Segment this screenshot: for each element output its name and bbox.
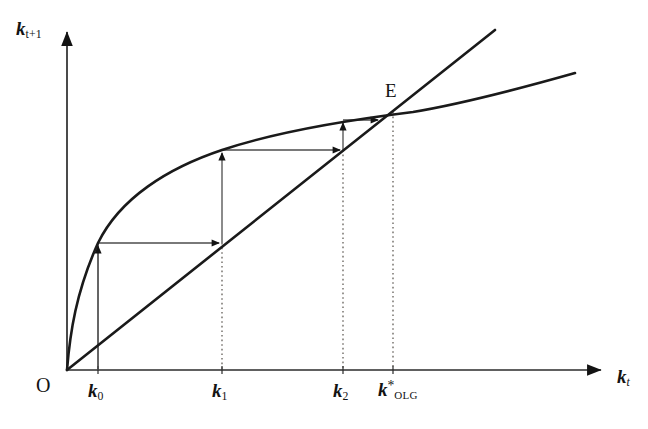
dropline-group	[98, 112, 393, 370]
x-axis-label: kt	[617, 366, 630, 390]
tick-label-k2-base: k	[333, 380, 343, 401]
origin-label: O	[36, 374, 50, 397]
tick-label-k0: k0	[88, 380, 104, 404]
steady-state-point-label: E	[385, 80, 397, 102]
tick-label-k1: k1	[212, 380, 228, 404]
y-axis-label-sub: t+1	[26, 28, 42, 41]
tick-label-k2: k2	[333, 380, 349, 404]
tick-label-k2-sub: 2	[343, 390, 349, 403]
x-axis-label-base: k	[617, 366, 627, 387]
axis-group	[67, 32, 601, 370]
y-axis-label: kt+1	[16, 18, 42, 42]
y-axis-label-base: k	[16, 18, 26, 39]
x-axis-label-sub: t	[627, 376, 630, 389]
tick-label-k0-base: k	[88, 380, 98, 401]
savings-curve	[67, 73, 575, 370]
tick-label-k1-sub: 1	[222, 390, 228, 403]
tick-label-k0-sub: 0	[98, 390, 104, 403]
figure-root: kt+1 kt O E k0 k1 k2 k*OLG	[0, 0, 648, 429]
tick-label-kstar-sub: OLG	[394, 389, 417, 401]
diagram-canvas	[0, 0, 648, 429]
tick-label-k1-base: k	[212, 380, 222, 401]
tick-label-k-star-olg: k*OLG	[378, 378, 418, 401]
tick-label-kstar-base: k	[378, 379, 388, 400]
